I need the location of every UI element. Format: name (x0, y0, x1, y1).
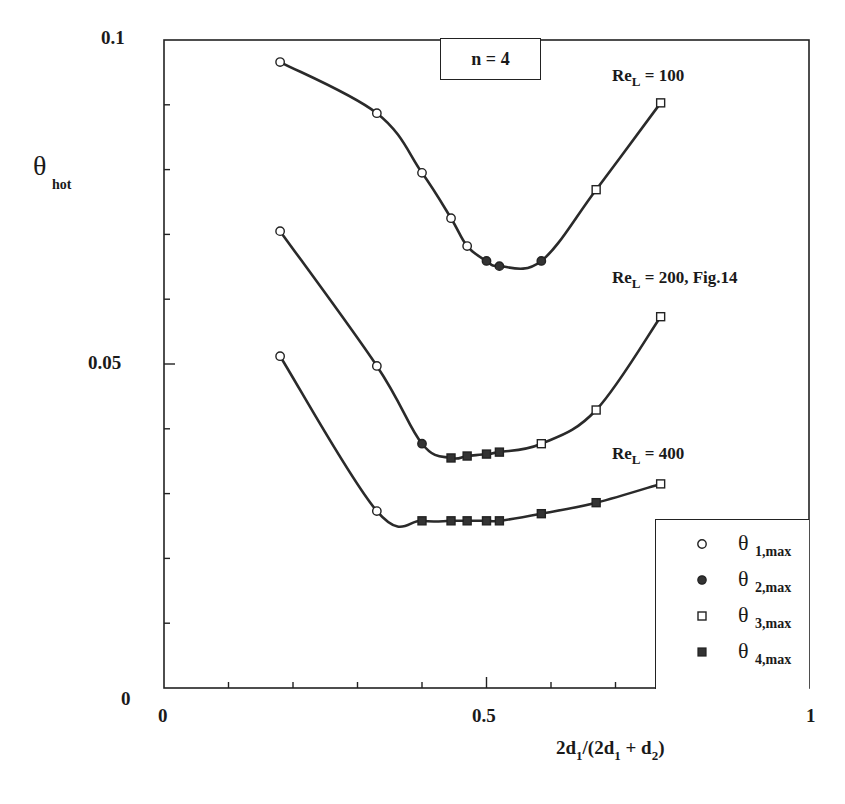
filled-square-marker (483, 517, 491, 525)
annot-text: = 100 (641, 66, 685, 85)
n-value-text: n = 4 (471, 49, 509, 70)
y-tick-0: 0 (121, 688, 131, 710)
legend-item-theta2: θ2,max (656, 566, 806, 602)
open-circle-icon (696, 538, 708, 550)
open-circle-marker (447, 214, 455, 222)
filled-square-marker (537, 510, 545, 518)
annotation-re100: ReL = 100 (612, 66, 684, 90)
annot-sub: L (632, 276, 641, 291)
y-axis-subscript: hot (52, 177, 71, 193)
filled-square-marker (495, 448, 503, 456)
curve-1 (280, 231, 661, 459)
legend-item-theta1: θ1,max (656, 530, 806, 566)
open-square-marker (657, 99, 665, 107)
open-circle-marker (276, 58, 284, 66)
open-square-marker (537, 440, 545, 448)
y-axis-label: θ hot (33, 150, 46, 182)
legend-item-theta4: θ4,max (656, 638, 806, 674)
open-circle-marker (463, 242, 471, 250)
x-tick-1: 1 (806, 705, 816, 727)
filled-square-icon (696, 646, 708, 658)
open-circle-marker (373, 507, 381, 515)
y-tick-0.1: 0.1 (101, 27, 125, 49)
y-axis-symbol: θ (33, 150, 46, 181)
annotation-re400: ReL = 400 (612, 444, 684, 468)
annot-sub: L (632, 74, 641, 89)
data-markers (276, 58, 665, 525)
filled-square-marker (463, 517, 471, 525)
annot-text: = 400 (641, 444, 685, 463)
open-square-icon (696, 610, 708, 622)
x-label-part: 2d (556, 737, 576, 758)
filled-square-marker (483, 450, 491, 458)
legend-item-theta3: θ3,max (656, 602, 806, 638)
x-tick-0.5: 0.5 (472, 705, 496, 727)
n-value-box: n = 4 (440, 38, 541, 80)
x-label-part: + d (621, 737, 652, 758)
filled-square-marker (592, 499, 600, 507)
annot-text: Re (612, 444, 632, 463)
legend: θ1,max θ2,max θ3,max θ4,max (655, 519, 809, 689)
open-circle-marker (276, 352, 284, 360)
x-label-part: /(2d (583, 737, 615, 758)
annot-text: Re (612, 268, 632, 287)
open-circle-marker (276, 227, 284, 235)
filled-circle-marker (482, 257, 490, 265)
annot-sub: L (632, 452, 641, 467)
legend-label: θ1,max (738, 530, 749, 556)
filled-square-marker (447, 517, 455, 525)
curve-0 (280, 62, 661, 269)
filled-square-marker (447, 454, 455, 462)
legend-label: θ4,max (738, 638, 749, 664)
annot-text: = 200, Fig.14 (641, 268, 738, 287)
open-square-marker (592, 406, 600, 414)
y-tick-0.05: 0.05 (88, 352, 121, 374)
legend-label: θ3,max (738, 602, 749, 628)
legend-label: θ2,max (738, 566, 749, 592)
open-circle-marker (418, 169, 426, 177)
filled-circle-marker (495, 262, 503, 270)
x-label-part: ) (658, 737, 664, 758)
open-circle-marker (373, 362, 381, 370)
open-square-marker (592, 186, 600, 194)
filled-circle-marker (537, 257, 545, 265)
x-tick-0: 0 (158, 705, 168, 727)
x-axis-label: 2d1/(2d1 + d2) (556, 737, 665, 764)
filled-circle-icon (696, 574, 708, 586)
curve-2 (280, 356, 661, 527)
annotation-re200: ReL = 200, Fig.14 (612, 268, 738, 292)
open-circle-marker (373, 109, 381, 117)
filled-square-marker (495, 517, 503, 525)
filled-square-marker (418, 517, 426, 525)
open-square-marker (657, 313, 665, 321)
open-square-marker (657, 480, 665, 488)
annot-text: Re (612, 66, 632, 85)
filled-circle-marker (418, 440, 426, 448)
filled-square-marker (463, 452, 471, 460)
